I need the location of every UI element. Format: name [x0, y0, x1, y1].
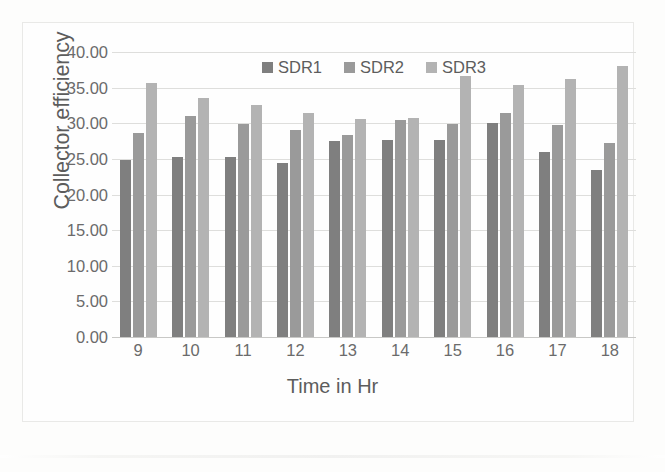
- x-tick-label: 18: [584, 341, 636, 360]
- x-tick-label: 12: [269, 341, 321, 360]
- bar-sdr3-15[interactable]: [460, 76, 471, 337]
- bar-sdr2-9[interactable]: [133, 133, 144, 337]
- bar-group: [584, 52, 636, 337]
- x-axis-title: Time in Hr: [0, 375, 665, 398]
- y-tick-label: 5.00: [26, 292, 108, 311]
- y-tick-label: 30.00: [26, 114, 108, 133]
- x-tick-label: 17: [531, 341, 583, 360]
- bar-sdr3-14[interactable]: [408, 118, 419, 337]
- bar-sdr1-10[interactable]: [172, 157, 183, 337]
- legend-label: SDR3: [442, 58, 486, 77]
- bar-sdr3-18[interactable]: [617, 66, 628, 337]
- x-tick-label: 11: [217, 341, 269, 360]
- bar-sdr1-16[interactable]: [487, 123, 498, 337]
- bar-sdr3-11[interactable]: [251, 105, 262, 337]
- y-tick-label: 0.00: [26, 328, 108, 347]
- bar-sdr1-9[interactable]: [120, 160, 131, 337]
- bar-sdr2-11[interactable]: [238, 124, 249, 337]
- bar-group: [479, 52, 531, 337]
- bar-group: [374, 52, 426, 337]
- chart-figure: Collector efficiency 40.0035.0030.0025.0…: [0, 0, 665, 472]
- y-tick-label: 40.00: [26, 43, 108, 62]
- x-tick-label: 9: [112, 341, 164, 360]
- x-tick-label: 10: [164, 341, 216, 360]
- bar-sdr3-16[interactable]: [513, 85, 524, 337]
- bar-group: [217, 52, 269, 337]
- y-tick-label: 35.00: [26, 79, 108, 98]
- bar-sdr2-15[interactable]: [447, 124, 458, 337]
- bar-groups: [112, 52, 636, 337]
- bar-sdr1-13[interactable]: [329, 141, 340, 337]
- bar-sdr1-12[interactable]: [277, 163, 288, 337]
- gridline: [112, 337, 636, 338]
- bar-group: [426, 52, 478, 337]
- plot-area: [112, 52, 636, 337]
- bar-sdr2-10[interactable]: [185, 116, 196, 337]
- bar-sdr3-17[interactable]: [565, 79, 576, 337]
- bar-group: [322, 52, 374, 337]
- bar-sdr3-10[interactable]: [198, 98, 209, 337]
- bar-sdr1-18[interactable]: [591, 170, 602, 337]
- bar-sdr3-13[interactable]: [355, 119, 366, 337]
- bar-sdr2-17[interactable]: [552, 125, 563, 337]
- bar-group: [531, 52, 583, 337]
- bar-group: [164, 52, 216, 337]
- y-tick-label: 15.00: [26, 221, 108, 240]
- scan-edge-artifact: [0, 455, 665, 458]
- y-tick-label: 20.00: [26, 186, 108, 205]
- bar-sdr1-17[interactable]: [539, 152, 550, 337]
- y-tick-label: 25.00: [26, 150, 108, 169]
- legend-label: SDR2: [360, 58, 404, 77]
- chart-legend: SDR1SDR2SDR3: [112, 58, 636, 77]
- x-tick-label: 13: [322, 341, 374, 360]
- bar-sdr3-9[interactable]: [146, 83, 157, 337]
- x-tick-label: 16: [479, 341, 531, 360]
- y-tick-label: 10.00: [26, 257, 108, 276]
- bar-sdr2-18[interactable]: [604, 143, 615, 337]
- legend-label: SDR1: [278, 58, 322, 77]
- bar-sdr1-15[interactable]: [434, 140, 445, 337]
- bar-group: [112, 52, 164, 337]
- y-axis-tick-labels: 40.0035.0030.0025.0020.0015.0010.005.000…: [22, 52, 108, 337]
- bar-sdr2-12[interactable]: [290, 130, 301, 337]
- bar-sdr1-14[interactable]: [382, 140, 393, 337]
- legend-entry-sdr3[interactable]: SDR3: [426, 58, 486, 77]
- bar-sdr2-16[interactable]: [500, 113, 511, 337]
- legend-swatch-icon: [426, 62, 437, 73]
- bar-group: [269, 52, 321, 337]
- bar-sdr2-14[interactable]: [395, 120, 406, 337]
- legend-entry-sdr2[interactable]: SDR2: [344, 58, 404, 77]
- bar-sdr1-11[interactable]: [225, 157, 236, 337]
- x-axis-tick-labels: 9101112131415161718: [112, 341, 636, 360]
- x-tick-label: 14: [374, 341, 426, 360]
- bar-sdr2-13[interactable]: [342, 135, 353, 337]
- legend-entry-sdr1[interactable]: SDR1: [262, 58, 322, 77]
- legend-swatch-icon: [344, 62, 355, 73]
- x-tick-label: 15: [426, 341, 478, 360]
- bar-sdr3-12[interactable]: [303, 113, 314, 337]
- legend-swatch-icon: [262, 62, 273, 73]
